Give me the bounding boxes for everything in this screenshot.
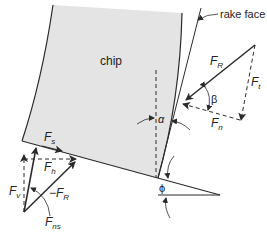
chip-label: chip xyxy=(100,54,122,68)
F_n-label: Fn xyxy=(211,116,223,132)
phi-arc-top xyxy=(168,156,174,178)
F_R-label: FR xyxy=(210,54,223,70)
alpha-label: α xyxy=(158,113,165,125)
F_v-label: Fv xyxy=(9,184,21,200)
F_R-vector xyxy=(186,45,255,100)
phi-label: ϕ xyxy=(159,182,165,194)
F_h-label: Fh xyxy=(44,160,56,176)
rake-face-label: rake face xyxy=(220,8,265,20)
rake-face-leader xyxy=(198,14,218,20)
phi-arc-bottom xyxy=(166,198,171,218)
cutting-force-diagram: rake face chip α ϕ FR Ft Fn β Fs Fh Fv −… xyxy=(0,0,267,234)
beta-arc xyxy=(205,87,209,110)
chip-body xyxy=(22,5,182,178)
F_ns-label: Fns xyxy=(45,215,61,231)
beta-label: β xyxy=(211,93,217,105)
neg-F_R-label: −FR xyxy=(49,186,69,202)
F_t-label: Ft xyxy=(251,75,261,91)
alpha-arc-right xyxy=(172,121,190,130)
